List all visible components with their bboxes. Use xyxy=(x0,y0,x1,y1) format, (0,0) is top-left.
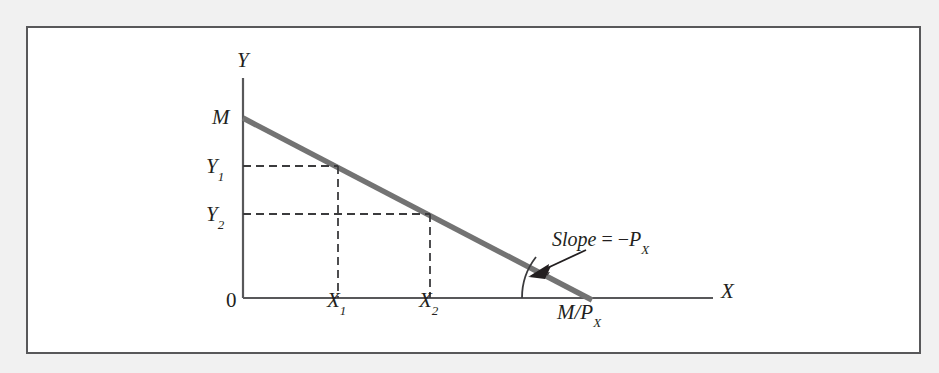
y-axis-label: Y xyxy=(237,48,249,73)
tick-label-x1: X1 xyxy=(327,288,346,316)
origin-label: 0 xyxy=(226,288,237,313)
tick-label-y2-base: Y xyxy=(206,202,218,226)
slope-annotation-label: Slope = −PX xyxy=(552,228,649,255)
budget-constraint-plot xyxy=(0,0,939,373)
x-axis-label: X xyxy=(721,279,734,304)
slope-annotation-price-subscript: X xyxy=(641,242,649,257)
slope-annotation-equals: = − xyxy=(596,228,629,250)
tick-label-x2-subscript: 2 xyxy=(432,303,439,318)
tick-label-y2-subscript: 2 xyxy=(218,217,225,232)
x-intercept-label-m-over-px: M/PX xyxy=(557,300,601,328)
figure-page: Y X M Y1 Y2 0 X1 X2 M/PX Slope = −PX xyxy=(0,0,939,373)
tick-label-x2-base: X xyxy=(419,288,432,312)
slope-annotation-price-symbol: P xyxy=(629,228,641,250)
x-intercept-subscript: X xyxy=(593,315,601,330)
tick-label-y1-subscript: 1 xyxy=(218,169,225,184)
tick-label-x2: X2 xyxy=(419,288,438,316)
tick-label-x1-subscript: 1 xyxy=(340,303,347,318)
y-intercept-label-m: M xyxy=(212,105,230,130)
tick-label-y1: Y1 xyxy=(206,154,224,182)
slope-annotation-word: Slope xyxy=(552,228,596,250)
tick-label-y2: Y2 xyxy=(206,202,224,230)
x-intercept-base: M/P xyxy=(557,300,593,324)
tick-label-y1-base: Y xyxy=(206,154,218,178)
tick-label-x1-base: X xyxy=(327,288,340,312)
